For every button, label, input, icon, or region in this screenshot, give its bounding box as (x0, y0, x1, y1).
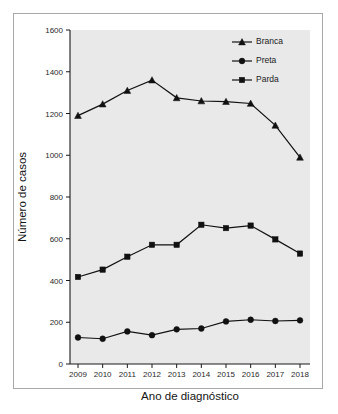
x-tick-label: 2017 (266, 370, 284, 379)
line-chart: 02004006008001000120014001600 2009201020… (0, 0, 338, 414)
y-tick-label: 1400 (45, 68, 63, 77)
y-axis-ticks: 02004006008001000120014001600 (45, 26, 70, 369)
marker-circle (124, 329, 130, 335)
x-tick-label: 2009 (69, 370, 87, 379)
chart-legend: BrancaPretaParda (232, 36, 283, 84)
marker-circle (174, 326, 180, 332)
marker-circle (248, 317, 254, 323)
x-axis-title: Ano de diagnóstico (141, 390, 239, 402)
y-tick-label: 1600 (45, 26, 63, 35)
x-tick-label: 2016 (242, 370, 260, 379)
marker-square (125, 254, 130, 259)
marker-circle (272, 318, 278, 324)
x-tick-label: 2015 (217, 370, 235, 379)
marker-square (239, 77, 244, 82)
x-tick-label: 2010 (94, 370, 112, 379)
x-tick-label: 2018 (291, 370, 309, 379)
marker-circle (100, 336, 106, 342)
marker-square (248, 223, 253, 228)
marker-square (223, 225, 228, 230)
y-tick-label: 1200 (45, 110, 63, 119)
marker-square (149, 242, 154, 247)
legend-label: Preta (256, 55, 277, 65)
x-tick-label: 2011 (119, 370, 137, 379)
marker-square (273, 237, 278, 242)
x-tick-label: 2012 (143, 370, 161, 379)
y-tick-label: 400 (50, 277, 64, 286)
y-tick-label: 600 (50, 235, 64, 244)
marker-square (297, 251, 302, 256)
y-tick-label: 1000 (45, 151, 63, 160)
marker-square (75, 274, 80, 279)
y-tick-label: 0 (59, 360, 64, 369)
marker-circle (198, 326, 204, 332)
marker-square (199, 222, 204, 227)
marker-circle (223, 319, 229, 325)
y-tick-label: 200 (50, 318, 64, 327)
x-axis-ticks: 2009201020112012201320142015201620172018 (69, 364, 309, 379)
marker-square (100, 267, 105, 272)
y-axis-title: Número de casos (16, 152, 28, 242)
y-tick-label: 800 (50, 193, 64, 202)
x-tick-label: 2014 (192, 370, 210, 379)
legend-label: Parda (256, 74, 279, 84)
chart-area: 02004006008001000120014001600 2009201020… (0, 0, 338, 414)
marker-circle (297, 317, 303, 323)
marker-square (174, 242, 179, 247)
x-tick-label: 2013 (168, 370, 186, 379)
legend-label: Branca (256, 36, 283, 46)
marker-circle (149, 332, 155, 338)
marker-circle (75, 335, 81, 341)
marker-circle (239, 58, 245, 64)
